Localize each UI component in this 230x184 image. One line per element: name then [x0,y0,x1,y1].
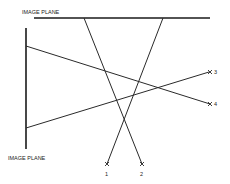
projection-diagram: IMAGE PLANE IMAGE PLANE 1 2 3 4 [0,0,230,184]
top-image-plane-label: IMAGE PLANE [22,9,60,15]
ray-to-point-2 [84,18,142,164]
point-1-marker [105,162,109,166]
point-2-label: 2 [140,171,143,177]
point-1-label: 1 [105,171,108,177]
point-3-label: 3 [214,69,217,75]
ray-to-point-1 [107,18,163,164]
point-4-label: 4 [214,101,217,107]
point-2-marker [140,162,144,166]
left-image-plane-label: IMAGE PLANE [8,155,46,161]
ray-to-point-3 [26,72,209,128]
ray-to-point-4 [26,46,210,104]
